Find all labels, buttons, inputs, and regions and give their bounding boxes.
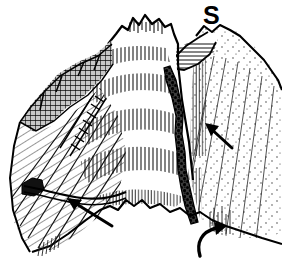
label-s: S <box>203 3 220 28</box>
geological-sketch-figure: S <box>0 0 282 264</box>
sketch-canvas <box>0 0 282 264</box>
